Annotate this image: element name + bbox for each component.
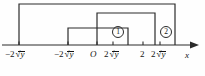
- middle-rect: [97, 13, 155, 45]
- tick-label-origin: O: [90, 50, 97, 59]
- radical-group: √y: [15, 50, 25, 59]
- tick-label-two-root-y-mid: 2√y: [104, 50, 118, 59]
- radical-group: √y: [64, 50, 74, 59]
- radical-bar: [112, 51, 119, 52]
- tick-coefficient: −2: [5, 49, 15, 59]
- radical-bar: [159, 51, 166, 52]
- x-axis-line: [2, 42, 199, 49]
- tick-label-minus-two-root-y-left: −2√y: [5, 50, 25, 59]
- radical-group: √y: [109, 50, 119, 59]
- region-label-1: 1: [112, 26, 124, 38]
- tick-label-two: 2: [140, 50, 145, 59]
- tick-label-minus-two-root-y-mid: −2√y: [54, 50, 74, 59]
- radical-bar: [67, 51, 74, 52]
- circled-two-icon: 2: [160, 26, 172, 38]
- radical-group: √y: [156, 50, 166, 59]
- tick-coefficient: −2: [54, 49, 64, 59]
- x-axis-label: x: [185, 50, 189, 60]
- circled-one-icon: 1: [112, 26, 124, 38]
- radical-bar: [18, 51, 25, 52]
- figure-canvas: [0, 0, 205, 76]
- tick-label-two-root-y-right: 2√y: [151, 50, 165, 59]
- number-line-figure: −2√y −2√y O 2√y 2 2√y x 1 2: [0, 0, 205, 76]
- tick-coefficient: 2: [140, 49, 145, 59]
- region-label-2: 2: [160, 26, 172, 38]
